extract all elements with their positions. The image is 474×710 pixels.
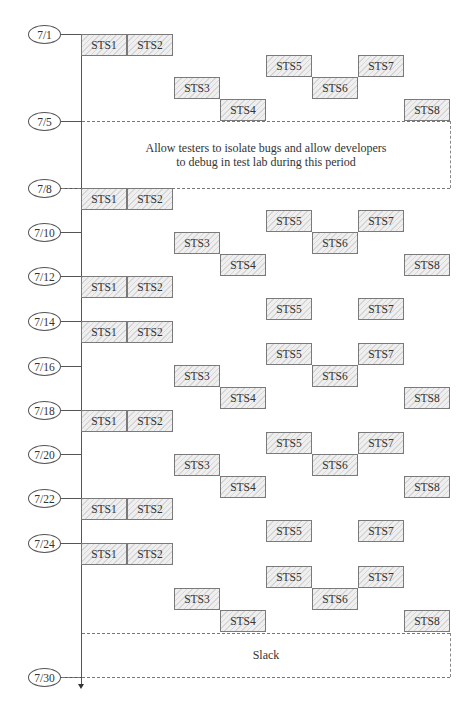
test-suite-block-sts7: STS7 [358, 520, 404, 542]
test-suite-block-sts5: STS5 [266, 55, 312, 77]
test-suite-block-sts2: STS2 [127, 321, 173, 343]
timeline-axis [81, 34, 82, 686]
test-suite-block-sts2: STS2 [127, 188, 173, 210]
date-tick [61, 276, 81, 277]
date-marker: 7/18 [28, 401, 61, 420]
test-suite-block-sts4: STS4 [220, 254, 266, 276]
slack-period-right-line [450, 633, 451, 677]
test-schedule-diagram: 7/17/57/87/107/127/147/167/187/207/227/2… [0, 0, 474, 710]
slack-period-bottom-line [62, 677, 450, 678]
test-suite-block-sts8: STS8 [404, 610, 450, 632]
test-suite-block-sts6: STS6 [312, 232, 358, 254]
test-suite-block-sts4: STS4 [220, 476, 266, 498]
test-suite-block-sts1: STS1 [81, 498, 127, 520]
date-marker: 7/8 [28, 179, 61, 198]
test-suite-block-sts2: STS2 [127, 543, 173, 565]
date-tick [61, 121, 81, 122]
debug-period-top-line [82, 121, 450, 122]
date-tick [61, 232, 81, 233]
test-suite-block-sts3: STS3 [174, 454, 220, 476]
test-suite-block-sts3: STS3 [174, 77, 220, 99]
test-suite-block-sts2: STS2 [127, 498, 173, 520]
debug-period-note: Allow testers to isolate bugs and allow … [82, 141, 450, 169]
test-suite-block-sts6: STS6 [312, 365, 358, 387]
date-tick [61, 410, 81, 411]
test-suite-block-sts2: STS2 [127, 410, 173, 432]
test-suite-block-sts3: STS3 [174, 588, 220, 610]
note-line: Slack [82, 648, 450, 662]
test-suite-block-sts3: STS3 [174, 365, 220, 387]
test-suite-block-sts8: STS8 [404, 99, 450, 121]
test-suite-block-sts8: STS8 [404, 387, 450, 409]
test-suite-block-sts6: STS6 [312, 77, 358, 99]
test-suite-block-sts1: STS1 [81, 410, 127, 432]
date-marker: 7/1 [28, 25, 61, 44]
test-suite-block-sts7: STS7 [358, 432, 404, 454]
test-suite-block-sts8: STS8 [404, 476, 450, 498]
note-line: to debug in test lab during this period [82, 155, 450, 169]
test-suite-block-sts5: STS5 [266, 566, 312, 588]
test-suite-block-sts4: STS4 [220, 387, 266, 409]
date-marker: 7/10 [28, 223, 61, 242]
test-suite-block-sts6: STS6 [312, 454, 358, 476]
test-suite-block-sts1: STS1 [81, 321, 127, 343]
test-suite-block-sts8: STS8 [404, 254, 450, 276]
test-suite-block-sts7: STS7 [358, 566, 404, 588]
slack-period-note: Slack [82, 648, 450, 662]
test-suite-block-sts1: STS1 [81, 188, 127, 210]
slack-period-top-line [82, 633, 450, 634]
date-tick [61, 543, 81, 544]
test-suite-block-sts7: STS7 [358, 343, 404, 365]
date-marker: 7/30 [28, 668, 61, 687]
date-marker: 7/20 [28, 445, 61, 464]
test-suite-block-sts5: STS5 [266, 298, 312, 320]
date-marker: 7/24 [28, 534, 61, 553]
date-tick [61, 454, 81, 455]
test-suite-block-sts5: STS5 [266, 520, 312, 542]
test-suite-block-sts6: STS6 [312, 588, 358, 610]
date-tick [61, 498, 81, 499]
date-marker: 7/22 [28, 489, 61, 508]
test-suite-block-sts1: STS1 [81, 34, 127, 56]
test-suite-block-sts1: STS1 [81, 543, 127, 565]
test-suite-block-sts5: STS5 [266, 432, 312, 454]
date-tick [61, 321, 81, 322]
date-marker: 7/12 [28, 267, 61, 286]
note-line: Allow testers to isolate bugs and allow … [82, 141, 450, 155]
timeline-arrow-icon [78, 684, 84, 689]
test-suite-block-sts2: STS2 [127, 276, 173, 298]
date-tick [61, 34, 81, 35]
test-suite-block-sts5: STS5 [266, 210, 312, 232]
test-suite-block-sts7: STS7 [358, 210, 404, 232]
date-marker: 7/5 [28, 112, 61, 131]
test-suite-block-sts4: STS4 [220, 99, 266, 121]
debug-period-right-line [450, 121, 451, 188]
date-marker: 7/14 [28, 312, 61, 331]
date-marker: 7/16 [28, 357, 61, 376]
test-suite-block-sts3: STS3 [174, 232, 220, 254]
test-suite-block-sts7: STS7 [358, 298, 404, 320]
date-tick [61, 366, 81, 367]
test-suite-block-sts5: STS5 [266, 343, 312, 365]
test-suite-block-sts1: STS1 [81, 276, 127, 298]
test-suite-block-sts4: STS4 [220, 610, 266, 632]
test-suite-block-sts2: STS2 [127, 34, 173, 56]
test-suite-block-sts7: STS7 [358, 55, 404, 77]
